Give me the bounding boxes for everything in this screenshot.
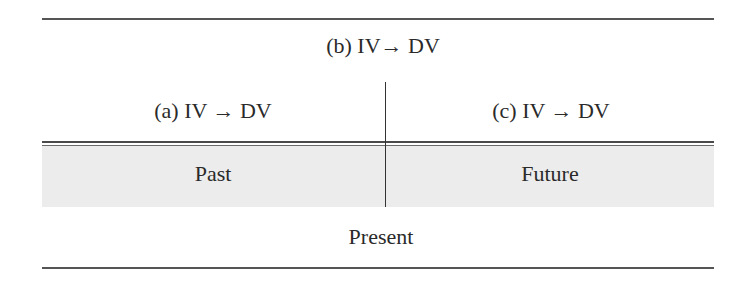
label-past: Past [195,161,232,187]
label-b-present-effect: (b) IV→ DV [326,33,440,59]
label-a-past-effect: (a) IV → DV [154,98,272,124]
top-rule [42,18,714,20]
shaded-time-band [42,146,714,207]
double-rule-upper [42,141,714,143]
bottom-rule [42,267,714,269]
label-future: Future [521,161,578,187]
double-rule-lower [42,145,714,146]
label-c-future-effect: (c) IV → DV [492,98,610,124]
label-present: Present [349,224,414,250]
vertical-divider-overlay [385,82,386,207]
